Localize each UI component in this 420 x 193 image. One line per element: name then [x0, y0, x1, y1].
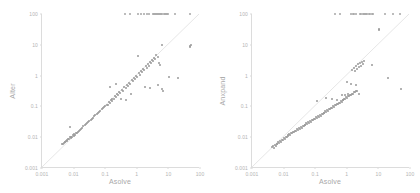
y-axis-tick-label: 0.1 [31, 103, 38, 109]
x-axis-tick-label: 0.001 [35, 171, 48, 177]
scatter-point [144, 86, 146, 88]
panel-right: 0.0010.010.11101000.0010.010.1110100 Aso… [210, 0, 420, 193]
scatter-point [154, 58, 156, 60]
scatter-point [113, 98, 115, 100]
scatter-point [355, 84, 357, 86]
scatter-point [134, 78, 136, 80]
scatter-point-ceiling [129, 13, 131, 15]
y-axis-tick-label: 10 [242, 42, 248, 48]
y-axis-tick-mark [40, 14, 42, 15]
y-axis-tick-mark [40, 137, 42, 138]
scatter-point [107, 104, 109, 106]
scatter-point-ceiling [399, 13, 401, 15]
scatter-point [139, 74, 141, 76]
y-axis-tick-mark [40, 106, 42, 107]
x-axis-tick-mark [105, 167, 106, 169]
scatter-point [159, 64, 161, 66]
scatter-point-ceiling [137, 13, 139, 15]
scatter-point [371, 64, 373, 66]
scatter-point [354, 70, 356, 72]
scatter-point [74, 134, 76, 136]
scatter-point [284, 138, 286, 140]
scatter-point [137, 55, 139, 57]
y-axis-tick-mark [250, 44, 252, 45]
scatter-point [356, 68, 358, 70]
y-axis-tick-label: 10 [32, 42, 38, 48]
y-axis-label-left: Alter [9, 83, 16, 98]
x-axis-tick-mark [42, 167, 43, 169]
scatter-point [111, 100, 113, 102]
scatter-point [127, 85, 129, 87]
scatter-point-ceiling [143, 13, 145, 15]
y-axis-tick-label: 0.01 [238, 134, 248, 140]
scatter-point [146, 67, 148, 69]
scatter-point [115, 96, 117, 98]
x-axis-tick-label: 0.001 [245, 171, 258, 177]
scatter-point [362, 63, 364, 65]
y-axis-tick-label: 1 [245, 73, 248, 79]
y-axis-label-right: Anxpand [219, 76, 226, 105]
x-axis-tick-label: 0.1 [312, 171, 319, 177]
scatter-point [162, 90, 164, 92]
scatter-point-ceiling [140, 13, 142, 15]
y-axis-tick-label: 100 [239, 11, 248, 17]
scatter-point [141, 71, 143, 73]
x-axis-tick-mark [315, 167, 316, 169]
x-axis-tick-mark [73, 167, 74, 169]
scatter-point [341, 94, 343, 96]
scatter-point [152, 60, 154, 62]
scatter-point-ceiling [339, 13, 341, 15]
x-axis-tick-label: 10 [376, 171, 382, 177]
scatter-point-ceiling [167, 13, 169, 15]
y-axis-tick-label: 0.1 [241, 103, 248, 109]
y-axis-tick-mark [250, 14, 252, 15]
scatter-point [387, 77, 389, 79]
scatter-point [346, 81, 348, 83]
scatter-point [129, 83, 131, 85]
scatter-point-ceiling [355, 13, 357, 15]
scatter-point [150, 62, 152, 64]
scatter-point [352, 93, 354, 95]
x-axis-tick-label: 100 [196, 171, 205, 177]
scatter-point [136, 76, 138, 78]
scatter-point [157, 56, 159, 58]
scatter-point [350, 83, 352, 85]
scatter-point [143, 69, 145, 71]
y-axis-tick-label: 100 [29, 11, 38, 17]
x-axis-tick-label: 1 [135, 171, 138, 177]
x-axis-tick-mark [252, 167, 253, 169]
scatter-point [177, 77, 179, 79]
scatter-point [157, 84, 159, 86]
y-axis-tick-mark [250, 106, 252, 107]
scatter-point [289, 134, 291, 136]
scatter-point-ceiling [124, 13, 126, 15]
scatter-point-ceiling [372, 13, 374, 15]
scatter-point-ceiling [174, 13, 176, 15]
plot-area-left: 0.0010.010.11101000.0010.010.1110100 [41, 14, 199, 168]
scatter-point [353, 67, 355, 69]
y-axis-tick-label: 1 [35, 73, 38, 79]
y-axis-tick-mark [250, 137, 252, 138]
x-axis-tick-label: 0.1 [102, 171, 109, 177]
scatter-point [316, 100, 318, 102]
scatter-point [66, 140, 68, 142]
scatter-point [363, 60, 365, 62]
scatter-point [125, 87, 127, 89]
scatter-point [378, 29, 380, 31]
x-axis-tick-label: 100 [406, 171, 415, 177]
scatter-point [275, 145, 277, 147]
scatter-point-ceiling [334, 13, 336, 15]
scatter-point [122, 90, 124, 92]
scatter-point [273, 147, 275, 149]
x-axis-tick-mark [168, 167, 169, 169]
scatter-point-ceiling [189, 13, 191, 15]
x-axis-tick-mark [200, 167, 201, 169]
panel-left: 0.0010.010.11101000.0010.010.1110100 Aso… [0, 0, 210, 193]
scatter-point [148, 65, 150, 67]
y-axis-tick-mark [250, 75, 252, 76]
scatter-point [115, 83, 117, 85]
scatter-point [356, 90, 358, 92]
scatter-point [358, 93, 360, 95]
scatter-point [69, 126, 71, 128]
scatter-figure: 0.0010.010.11101000.0010.010.1110100 Aso… [0, 0, 420, 193]
